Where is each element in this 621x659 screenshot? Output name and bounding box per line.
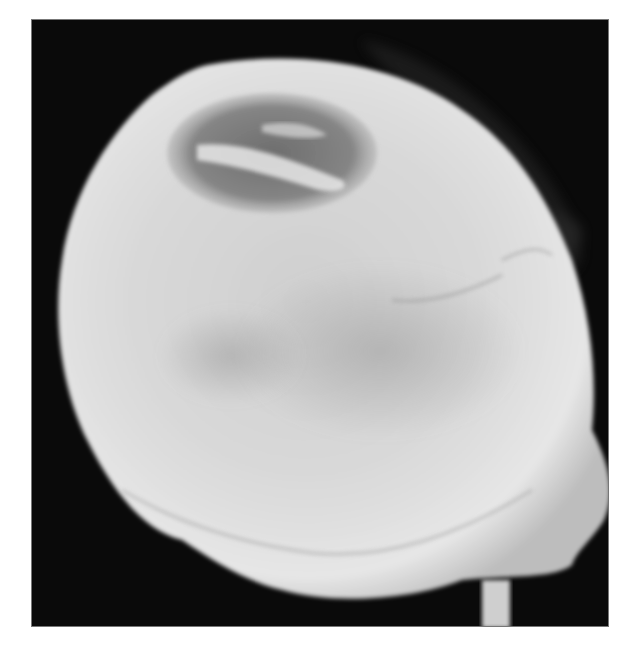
medical-image-frame [31,19,609,627]
caption-cutoff [31,648,609,659]
skull-rendering [32,20,609,627]
